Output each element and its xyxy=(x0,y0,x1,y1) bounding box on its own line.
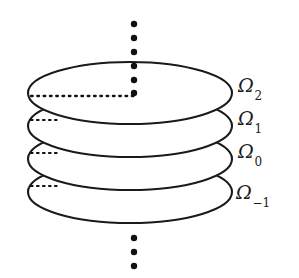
label-omega-2-subscript: 2 xyxy=(254,89,262,103)
label-omega-1-subscript: 1 xyxy=(254,122,262,136)
label-omega-1-base: Ω xyxy=(238,107,254,129)
disk-omega-2-outline xyxy=(28,62,232,124)
label-omega-minus-1-subscript: −1 xyxy=(252,196,270,210)
ellipsis-top-dot xyxy=(131,49,137,55)
ellipsis-top-dot xyxy=(131,21,137,27)
label-omega-2-base: Ω xyxy=(238,74,254,96)
label-omega-minus-1-base: Ω xyxy=(236,181,252,203)
label-omega-2: Ω2 xyxy=(238,76,262,99)
ellipsis-top-dot xyxy=(131,35,137,41)
ellipsis-top-dot xyxy=(131,63,137,69)
ellipsis-bottom-dot xyxy=(131,263,137,269)
figure-container: Ω2 Ω1 Ω0 Ω−1 xyxy=(0,0,299,278)
disk-omega-2 xyxy=(28,62,232,124)
stacked-disks-diagram xyxy=(0,0,299,278)
label-omega-0-base: Ω xyxy=(238,140,254,162)
label-omega-0: Ω0 xyxy=(238,142,262,165)
ellipsis-top-dot xyxy=(131,77,137,83)
ellipsis-bottom-dot xyxy=(131,249,137,255)
ellipsis-bottom-dot xyxy=(131,235,137,241)
ellipsis-bottom xyxy=(131,235,137,269)
label-omega-0-subscript: 0 xyxy=(254,155,262,169)
label-omega-1: Ω1 xyxy=(238,109,262,132)
label-omega-minus-1: Ω−1 xyxy=(236,183,270,206)
